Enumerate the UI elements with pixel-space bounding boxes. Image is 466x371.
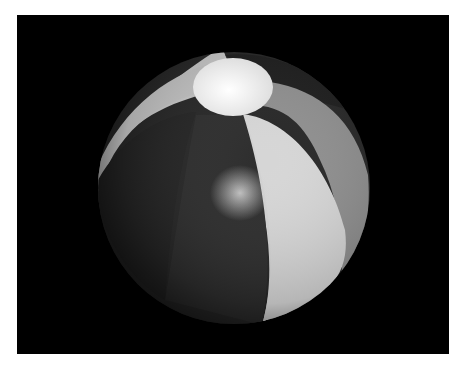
beach-ball xyxy=(0,0,466,371)
ball-cap xyxy=(193,58,273,116)
